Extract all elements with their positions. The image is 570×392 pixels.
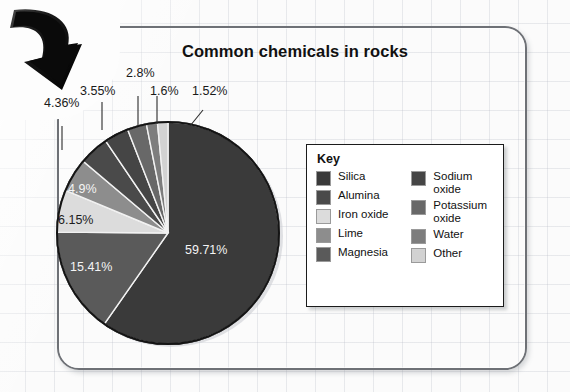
label-magnesia: 15.41% — [70, 260, 112, 274]
label-silica: 59.71% — [185, 243, 227, 257]
label-potassium-oxide: 2.8% — [126, 66, 155, 80]
legend-item[interactable]: Sodiumoxide — [411, 170, 495, 195]
legend-swatch-icon — [411, 248, 426, 263]
legend-item[interactable]: Silica — [316, 170, 403, 186]
legend-swatch-icon — [316, 247, 331, 262]
legend-swatch-icon — [411, 171, 426, 186]
legend-item-label: Water — [433, 228, 463, 241]
pie-slices — [57, 122, 279, 344]
legend-key-box: Key SilicaAluminaIron oxideLimeMagnesia … — [306, 144, 504, 307]
legend-item[interactable]: Iron oxide — [316, 208, 403, 224]
legend-item-label: Magnesia — [338, 246, 388, 259]
legend-item-label: Sodiumoxide — [433, 170, 472, 195]
legend-item[interactable]: Magnesia — [316, 246, 403, 262]
label-lime: 4.9% — [68, 182, 97, 196]
legend-swatch-icon — [411, 229, 426, 244]
legend-item[interactable]: Other — [411, 247, 495, 263]
label-iron-oxide: 6.15% — [58, 213, 93, 227]
legend-column-left: SilicaAluminaIron oxideLimeMagnesia — [316, 170, 403, 266]
legend-swatch-icon — [316, 228, 331, 243]
pie-chart — [40, 96, 305, 361]
legend-column-right: SodiumoxidePotassiumoxideWaterOther — [411, 170, 495, 266]
legend-swatch-icon — [316, 190, 331, 205]
legend-item-label: Lime — [338, 227, 363, 240]
legend-item[interactable]: Potassiumoxide — [411, 199, 495, 224]
legend-item[interactable]: Lime — [316, 227, 403, 243]
chart-title: Common chemicals in rocks — [150, 42, 440, 61]
legend-swatch-icon — [316, 171, 331, 186]
legend-item-label: Iron oxide — [338, 208, 389, 221]
legend-item-label: Alumina — [338, 189, 380, 202]
legend-heading: Key — [317, 152, 495, 166]
label-sodium-oxide: 3.55% — [80, 84, 115, 98]
legend-item-label: Potassiumoxide — [433, 199, 487, 224]
leader-line — [190, 110, 203, 126]
legend-item[interactable]: Alumina — [316, 189, 403, 205]
label-other: 1.52% — [192, 84, 227, 98]
legend-item-label: Silica — [338, 170, 365, 183]
label-water: 1.6% — [150, 84, 179, 98]
pie-chart-svg — [40, 96, 305, 361]
legend-swatch-icon — [316, 209, 331, 224]
label-alumina: 4.36% — [44, 96, 79, 110]
legend-item-label: Other — [433, 247, 462, 260]
legend-swatch-icon — [411, 200, 426, 215]
legend-item[interactable]: Water — [411, 228, 495, 244]
